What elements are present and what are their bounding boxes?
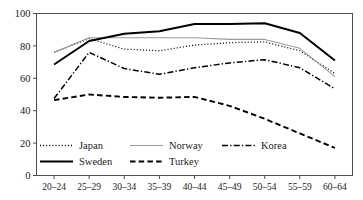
legend-label-norway: Norway [169, 140, 204, 151]
x-tick-label: 55–59 [288, 182, 312, 192]
line-chart: 02040608010020–2425–2930–3435–3940–4445–… [0, 0, 363, 200]
series-line-korea [54, 52, 335, 98]
x-tick-label: 35–39 [148, 182, 172, 192]
y-tick-label: 60 [20, 73, 31, 84]
legend-entry-sweden: Sweden [40, 156, 113, 167]
legend-label-japan: Japan [79, 140, 104, 151]
y-tick-label: 40 [20, 105, 31, 116]
x-tick-label: 20–24 [42, 182, 66, 192]
y-tick-label: 0 [25, 170, 30, 181]
legend-label-turkey: Turkey [169, 156, 200, 167]
x-tick-label: 40–44 [183, 182, 207, 192]
legend-label-korea: Korea [261, 140, 287, 151]
y-tick-label: 80 [20, 41, 31, 52]
x-tick-label: 25–29 [77, 182, 101, 192]
legend-entry-korea: Korea [222, 140, 287, 151]
x-tick-label: 30–34 [112, 182, 136, 192]
chart-canvas: 02040608010020–2425–2930–3435–3940–4445–… [0, 0, 363, 200]
legend-entry-norway: Norway [130, 140, 204, 151]
legend-label-sweden: Sweden [79, 156, 113, 167]
y-tick-label: 100 [15, 8, 31, 19]
y-tick-label: 20 [20, 138, 31, 149]
x-tick-label: 50–54 [253, 182, 277, 192]
series-line-norway [54, 38, 335, 77]
legend-entry-japan: Japan [40, 140, 104, 151]
legend-entry-turkey: Turkey [130, 156, 200, 167]
x-tick-label: 45–49 [218, 182, 242, 192]
x-tick-label: 60–64 [323, 182, 347, 192]
series-line-sweden [54, 23, 335, 64]
